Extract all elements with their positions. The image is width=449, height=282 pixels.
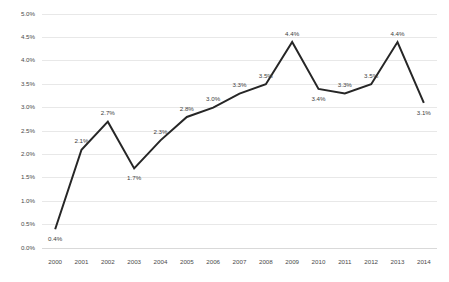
data-point-label: 2.8% — [180, 105, 195, 112]
data-point-labels: 0.4%2.1%2.7%1.7%2.3%2.8%3.0%3.3%3.5%4.4%… — [48, 30, 431, 242]
data-point-label: 3.1% — [417, 109, 432, 116]
x-axis-tick-label: 2003 — [127, 258, 141, 265]
x-axis-tick-label: 2004 — [154, 258, 168, 265]
data-point-label: 4.4% — [390, 30, 405, 37]
y-axis-tick-label: 0.0% — [21, 244, 36, 251]
gridlines — [42, 14, 437, 248]
data-point-label: 4.4% — [285, 30, 300, 37]
data-point-label: 2.3% — [153, 128, 168, 135]
x-axis-tick-label: 2012 — [364, 258, 378, 265]
chart-canvas: 0.0%0.5%1.0%1.5%2.0%2.5%3.0%3.5%4.0%4.5%… — [0, 0, 449, 282]
x-axis-tick-label: 2006 — [206, 258, 220, 265]
y-axis-tick-label: 0.5% — [21, 220, 36, 227]
y-axis-tick-label: 3.0% — [21, 103, 36, 110]
x-axis-tick-label: 2002 — [101, 258, 115, 265]
data-point-label: 3.5% — [259, 72, 274, 79]
y-axis-tick-label: 5.0% — [21, 10, 36, 17]
data-point-label: 3.5% — [364, 72, 379, 79]
y-axis-tick-label: 4.5% — [21, 33, 36, 40]
data-point-label: 2.1% — [74, 137, 89, 144]
data-point-label: 3.4% — [311, 95, 326, 102]
y-axis-tick-labels: 0.0%0.5%1.0%1.5%2.0%2.5%3.0%3.5%4.0%4.5%… — [21, 10, 36, 251]
data-point-label: 3.3% — [232, 81, 247, 88]
y-axis-tick-label: 1.0% — [21, 197, 36, 204]
data-point-label: 1.7% — [127, 174, 142, 181]
x-axis-tick-label: 2005 — [180, 258, 194, 265]
x-axis-tick-label: 2009 — [285, 258, 299, 265]
x-axis-tick-label: 2000 — [48, 258, 62, 265]
x-axis-tick-label: 2011 — [338, 258, 352, 265]
x-axis-tick-label: 2008 — [259, 258, 273, 265]
y-axis-tick-label: 2.0% — [21, 150, 36, 157]
x-axis-tick-label: 2001 — [75, 258, 89, 265]
y-axis-tick-label: 2.5% — [21, 127, 36, 134]
data-point-label: 3.0% — [206, 95, 221, 102]
x-axis-tick-label: 2014 — [417, 258, 431, 265]
y-axis-tick-label: 3.5% — [21, 80, 36, 87]
x-axis-tick-label: 2010 — [312, 258, 326, 265]
y-axis-tick-label: 1.5% — [21, 173, 36, 180]
line-chart: 0.0%0.5%1.0%1.5%2.0%2.5%3.0%3.5%4.0%4.5%… — [0, 0, 449, 282]
y-axis-tick-label: 4.0% — [21, 56, 36, 63]
x-axis-tick-label: 2013 — [391, 258, 405, 265]
data-point-label: 3.3% — [338, 81, 353, 88]
x-axis-tick-label: 2007 — [233, 258, 247, 265]
data-point-label: 0.4% — [48, 235, 63, 242]
data-point-label: 2.7% — [101, 109, 116, 116]
x-axis-tick-labels: 2000200120022003200420052006200720082009… — [48, 258, 431, 265]
